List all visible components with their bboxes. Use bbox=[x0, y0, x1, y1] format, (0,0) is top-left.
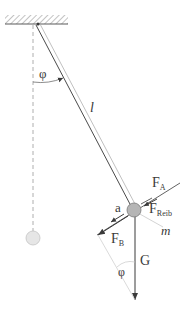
ceiling-hatch bbox=[5, 15, 68, 24]
friction-label: FReib bbox=[149, 201, 172, 218]
pendulum-diagram: φ l φ FA FReib a FB m G bbox=[0, 0, 183, 319]
pivot-point bbox=[37, 23, 40, 26]
acceleration-arrow bbox=[111, 214, 124, 222]
pendulum-bob bbox=[127, 203, 141, 217]
force-b-label: FB bbox=[111, 231, 124, 248]
angle-label-top: φ bbox=[39, 66, 47, 81]
angle-arc-top bbox=[33, 78, 63, 83]
rest-bob bbox=[26, 231, 40, 245]
force-a-label: FA bbox=[152, 175, 166, 192]
gravity-label: G bbox=[140, 253, 150, 268]
length-label: l bbox=[90, 100, 94, 115]
pendulum-rod bbox=[36, 24, 135, 206]
mass-label: m bbox=[161, 223, 170, 238]
ceiling bbox=[5, 15, 68, 24]
acceleration-label: a bbox=[115, 200, 121, 215]
angle-label-bottom: φ bbox=[118, 265, 125, 279]
